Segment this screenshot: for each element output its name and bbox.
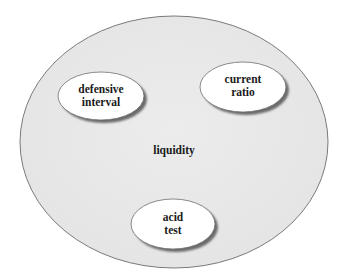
label-line: ratio xyxy=(225,86,262,99)
label-line: interval xyxy=(78,96,123,109)
label-line: test xyxy=(163,224,183,237)
node-label-current-ratio: current ratio xyxy=(225,73,262,99)
label-line: defensive xyxy=(78,83,123,96)
label-line: acid xyxy=(163,211,183,224)
diagram-canvas xyxy=(0,0,344,280)
node-label-defensive-interval: defensive interval xyxy=(78,83,123,109)
node-label-acid-test: acid test xyxy=(163,211,183,237)
label-line: current xyxy=(225,73,262,86)
outer-label-liquidity: liquidity xyxy=(153,144,195,157)
label-line: liquidity xyxy=(153,144,195,157)
